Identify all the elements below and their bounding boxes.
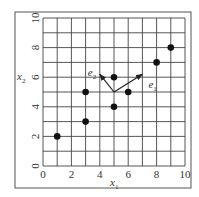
data-point [111,104,118,111]
y-tick-label: 8 [29,44,41,50]
x-tick-label: 4 [97,168,103,180]
data-point [82,89,89,96]
x-tick-label: 2 [69,168,75,180]
y-tick-label: 6 [29,74,41,80]
data-point [168,44,175,51]
data-point [111,74,118,81]
y-tick-label: 2 [29,134,41,140]
data-point [153,59,160,66]
data-point [125,89,132,96]
y-tick-labels: 0246810 [29,12,41,169]
data-point [82,118,89,125]
outer-frame [15,12,191,188]
y-tick-label: 0 [29,163,41,169]
vector-label-e1: e1 [148,78,157,93]
x-axis-label: x1 [109,176,119,191]
vector-label-e2: e2 [88,66,97,81]
x-tick-label: 6 [125,168,131,180]
y-tick-label: 10 [29,12,41,24]
y-tick-label: 4 [29,104,41,110]
chart-canvas: 0246810 0246810 x1 x2 e1e2 [0,0,199,197]
x-tick-label: 8 [154,168,160,180]
x-tick-label: 0 [40,168,46,180]
x-tick-label: 10 [180,168,192,180]
x-tick-labels: 0246810 [40,168,191,180]
data-point [54,133,61,140]
vectors: e1e2 [88,66,157,93]
y-axis-label: x2 [16,70,26,85]
